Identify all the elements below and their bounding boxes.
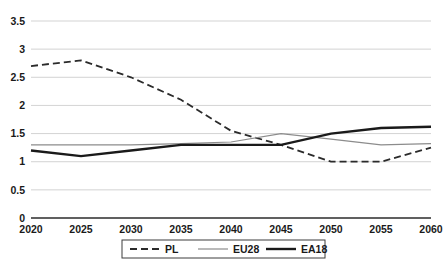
- x-tick-label: 2060: [419, 223, 443, 235]
- y-axis-tick-labels: 00.511.522.533.5: [10, 15, 25, 224]
- legend-label-eu28: EU28: [233, 243, 259, 255]
- y-tick-label: 1.5: [10, 127, 25, 139]
- y-tick-label: 3: [19, 43, 25, 55]
- y-tick-label: 2: [19, 99, 25, 111]
- legend-label-ea18: EA18: [301, 243, 327, 255]
- x-tick-label: 2040: [219, 223, 243, 235]
- line-chart: 00.511.522.533.5 20202025203020352040204…: [0, 0, 446, 266]
- y-tick-label: 0.5: [10, 184, 25, 196]
- gridlines-group: [31, 21, 431, 190]
- y-tick-label: 1: [19, 155, 25, 167]
- x-tick-label: 2025: [69, 223, 93, 235]
- chart-legend: PLEU28EA18: [122, 240, 327, 258]
- x-tick-label: 2055: [369, 223, 393, 235]
- legend-label-pl: PL: [165, 243, 179, 255]
- x-tick-label: 2045: [269, 223, 293, 235]
- series-line-pl: [31, 60, 431, 161]
- y-tick-label: 0: [19, 212, 25, 224]
- x-tick-label: 2030: [119, 223, 143, 235]
- x-axis-tick-labels: 202020252030203520402045205020552060: [19, 223, 443, 235]
- y-tick-label: 2.5: [10, 71, 25, 83]
- x-tick-label: 2020: [19, 223, 43, 235]
- y-tick-label: 3.5: [10, 15, 25, 27]
- chart-canvas: 00.511.522.533.5 20202025203020352040204…: [0, 0, 446, 266]
- x-tick-label: 2050: [319, 223, 343, 235]
- series-group: [31, 60, 431, 161]
- x-tick-label: 2035: [169, 223, 193, 235]
- series-line-eu28: [31, 134, 431, 145]
